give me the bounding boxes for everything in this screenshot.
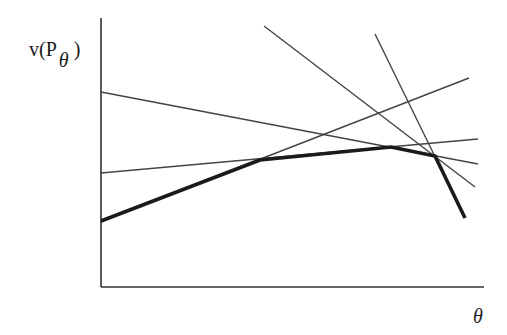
y-axis-label-subscript: θ <box>59 49 69 71</box>
linear-functions <box>101 26 478 221</box>
y-axis-label-suffix: ) <box>74 38 81 60</box>
y-axis-label-prefix: v(P <box>29 38 57 60</box>
line-4 <box>264 26 475 187</box>
envelope-polyline <box>101 147 465 221</box>
x-axis-label: θ <box>473 306 483 326</box>
upper-envelope <box>101 147 465 221</box>
y-axis-label: v(Pθ) <box>29 39 80 59</box>
